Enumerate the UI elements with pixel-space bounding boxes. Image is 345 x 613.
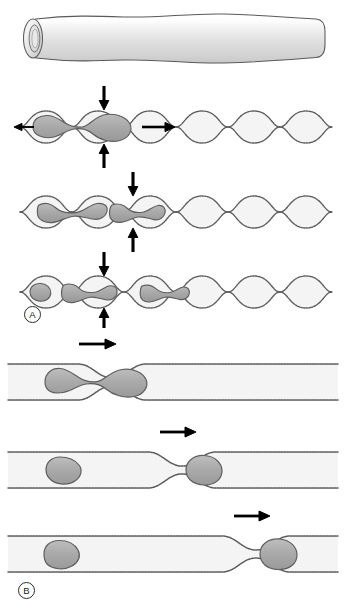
flow-arrow-right xyxy=(160,427,196,437)
vessel-wall-top xyxy=(20,196,332,212)
flow-arrow-right xyxy=(234,511,270,521)
cell-fragment-1 xyxy=(30,283,51,301)
tube-body xyxy=(29,14,325,63)
cell-at-constriction xyxy=(260,539,297,570)
arrow-up-bottom xyxy=(128,228,138,252)
panel-a-stage-1 xyxy=(0,86,345,168)
tube-open-end xyxy=(24,19,43,58)
cell-body-left xyxy=(37,203,107,222)
panel-a-stage-3 xyxy=(0,252,345,328)
panel-b-stage-3 xyxy=(0,508,345,594)
arrow-down-top xyxy=(99,86,109,110)
panel-label-a: A xyxy=(24,306,41,323)
cell-upstream xyxy=(44,541,79,569)
arrow-down-top xyxy=(99,252,109,276)
flow-arrow-right xyxy=(79,339,116,349)
cell-upstream xyxy=(46,457,81,484)
figure-container: A xyxy=(0,0,345,613)
panel-label-b: B xyxy=(18,582,35,599)
arrow-up-bottom xyxy=(99,144,109,168)
panel-b-stage-2 xyxy=(0,424,345,508)
panel-b-stage-1 xyxy=(0,336,345,422)
panel-a-stage-2 xyxy=(0,172,345,252)
cell-at-constriction xyxy=(186,455,222,485)
vessel-3d-illustration xyxy=(0,2,345,80)
arrow-down-top xyxy=(128,172,138,196)
arrow-up-bottom xyxy=(99,308,109,328)
